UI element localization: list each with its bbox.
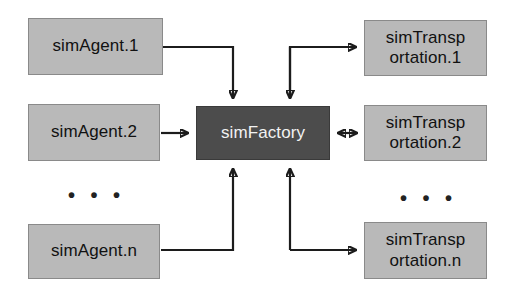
node-label: simAgent.n	[47, 241, 141, 261]
edge-factory-to-transport1	[290, 47, 356, 98]
node-sim-agent-2[interactable]: simAgent.2	[28, 104, 160, 161]
node-sim-transportation-n[interactable]: simTransp ortation.n	[364, 222, 487, 279]
node-label: simFactory	[217, 123, 309, 143]
node-sim-agent-1[interactable]: simAgent.1	[28, 18, 163, 75]
node-label: simTransp ortation.2	[382, 113, 470, 153]
edge-agentn-to-factory	[161, 169, 233, 250]
node-label: simAgent.1	[48, 36, 142, 56]
node-label: simTransp ortation.n	[382, 230, 470, 270]
node-sim-agent-n[interactable]: simAgent.n	[28, 224, 160, 279]
edge-agent1-to-factory	[163, 47, 233, 98]
right-ellipsis: • • •	[400, 188, 457, 208]
left-ellipsis: • • •	[68, 185, 125, 205]
diagram-canvas: simAgent.1 simAgent.2 simAgent.n simFact…	[0, 0, 510, 293]
node-sim-factory[interactable]: simFactory	[196, 106, 330, 160]
node-label: simAgent.2	[47, 122, 141, 142]
node-sim-transportation-2[interactable]: simTransp ortation.2	[364, 105, 487, 161]
node-sim-transportation-1[interactable]: simTransp ortation.1	[364, 20, 487, 76]
node-label: simTransp ortation.1	[382, 28, 470, 68]
